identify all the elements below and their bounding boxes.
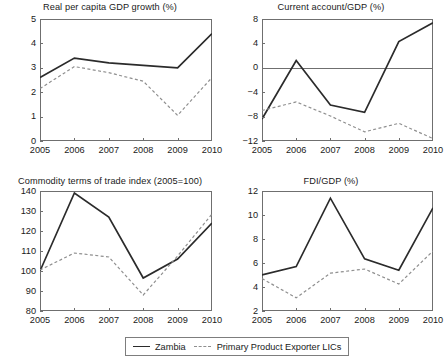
x-tick-label: 2006 [279, 145, 313, 155]
y-tick-label: 130 [4, 207, 36, 216]
series-line-primary-product-exporter-lics [262, 251, 433, 298]
chart-panel-commodity-terms-of-trade: Commodity terms of trade index (2005=100… [0, 176, 220, 336]
plot-canvas [262, 19, 433, 141]
x-tick-label: 2006 [57, 315, 91, 325]
y-tick-mark [262, 19, 265, 20]
plot-area [262, 191, 433, 311]
y-tick-mark [262, 215, 265, 216]
y-tick-mark [262, 68, 265, 69]
y-tick-label: 4 [226, 283, 258, 292]
plot-area [40, 191, 212, 311]
legend-dashed-line-icon [194, 346, 211, 347]
chart-panel-current-account-gdp: Current account/GDP (%) −12−8−4048 20052… [221, 2, 441, 174]
series-line-primary-product-exporter-lics [40, 67, 212, 116]
y-tick-mark [40, 68, 43, 69]
y-tick-mark [40, 19, 43, 20]
x-tick-label: 2005 [23, 315, 57, 325]
y-tick-label: 120 [4, 227, 36, 236]
x-tick-label: 2008 [126, 145, 160, 155]
x-tick-label: 2010 [416, 145, 448, 155]
legend-label-zambia: Zambia [155, 342, 186, 352]
y-tick-label: 4 [226, 39, 258, 48]
y-tick-label: 10 [226, 211, 258, 220]
y-tick-mark [262, 92, 265, 93]
plot-canvas [262, 191, 433, 311]
series-line-zambia [262, 198, 433, 275]
y-tick-label: 0 [226, 63, 258, 72]
chart-panel-real-gdp-growth: Real per capita GDP growth (%) 012345 20… [0, 2, 220, 174]
y-tick-mark [262, 239, 265, 240]
plot-canvas [40, 191, 212, 311]
y-tick-mark [40, 92, 43, 93]
x-tick-label: 2009 [161, 145, 195, 155]
legend-item-primary-product-exporter-lics: Primary Product Exporter LICs [186, 342, 342, 352]
y-tick-label: 8 [226, 235, 258, 244]
plot-frame [41, 20, 212, 141]
plot-area [262, 19, 433, 141]
y-tick-label: 4 [4, 39, 36, 48]
x-tick-label: 2008 [348, 145, 382, 155]
x-tick-label: 2006 [57, 145, 91, 155]
x-tick-label: 2009 [161, 315, 195, 325]
y-tick-mark [262, 263, 265, 264]
panel-title: Current account/GDP (%) [221, 2, 441, 13]
y-tick-label: 12 [226, 187, 258, 196]
y-tick-mark [40, 43, 43, 44]
y-tick-mark [40, 211, 43, 212]
x-tick-label: 2009 [382, 315, 416, 325]
series-line-primary-product-exporter-lics [40, 214, 212, 295]
x-tick-label: 2006 [279, 315, 313, 325]
chart-legend: Zambia Primary Product Exporter LICs [125, 337, 349, 356]
y-tick-mark [262, 311, 265, 312]
y-tick-mark [40, 141, 43, 142]
series-line-zambia [262, 23, 433, 119]
y-tick-mark [40, 251, 43, 252]
series-line-zambia [40, 34, 212, 78]
y-tick-label: 3 [4, 63, 36, 72]
y-tick-mark [262, 287, 265, 288]
x-tick-label: 2007 [313, 145, 347, 155]
series-line-primary-product-exporter-lics [262, 102, 433, 139]
plot-canvas [40, 19, 212, 141]
y-tick-label: 100 [4, 267, 36, 276]
x-tick-label: 2005 [245, 145, 279, 155]
series-line-zambia [40, 193, 212, 278]
y-tick-mark [40, 231, 43, 232]
x-tick-label: 2008 [126, 315, 160, 325]
x-tick-label: 2010 [416, 315, 448, 325]
y-tick-label: 8 [226, 15, 258, 24]
y-tick-label: −4 [226, 88, 258, 97]
x-tick-label: 2007 [92, 145, 126, 155]
y-tick-label: 110 [4, 247, 36, 256]
y-tick-mark [40, 191, 43, 192]
y-tick-label: 1 [4, 112, 36, 121]
x-tick-label: 2009 [382, 145, 416, 155]
plot-area [40, 19, 212, 141]
x-tick-label: 2005 [245, 315, 279, 325]
y-tick-label: −8 [226, 112, 258, 121]
y-tick-mark [40, 311, 43, 312]
y-tick-label: 5 [4, 15, 36, 24]
x-tick-label: 2005 [23, 145, 57, 155]
legend-item-zambia: Zambia [133, 342, 186, 352]
panel-title: Real per capita GDP growth (%) [0, 2, 220, 13]
y-tick-label: 2 [4, 88, 36, 97]
y-tick-label: 6 [226, 259, 258, 268]
x-tick-label: 2007 [92, 315, 126, 325]
y-tick-mark [40, 271, 43, 272]
y-tick-mark [262, 191, 265, 192]
x-tick-label: 2008 [348, 315, 382, 325]
y-tick-mark [40, 291, 43, 292]
x-tick-label: 2007 [313, 315, 347, 325]
y-tick-mark [262, 141, 265, 142]
y-tick-mark [262, 43, 265, 44]
chart-panel-fdi-gdp: FDI/GDP (%) 24681012 2005200620072008200… [221, 176, 441, 336]
legend-solid-line-icon [133, 346, 150, 347]
y-tick-label: 140 [4, 187, 36, 196]
y-tick-mark [40, 117, 43, 118]
y-tick-mark [262, 117, 265, 118]
y-tick-label: 90 [4, 287, 36, 296]
legend-label-primary-product-exporter-lics: Primary Product Exporter LICs [217, 342, 342, 352]
